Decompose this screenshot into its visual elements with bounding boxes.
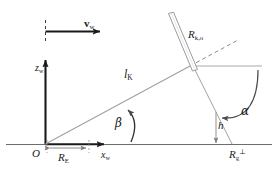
label-radius-ground: RE xyxy=(58,152,69,163)
label-z-axis: zw xyxy=(35,63,43,73)
radius-ground-subscript: E xyxy=(65,157,69,164)
alpha-symbol: α xyxy=(241,104,249,118)
rod-centerline-extension xyxy=(195,70,232,144)
dashed-extension-line xyxy=(190,40,238,66)
label-origin: O xyxy=(32,148,40,159)
z-axis-subscript: w xyxy=(39,67,43,74)
label-velocity: vw xyxy=(84,18,94,29)
geometry-diagram: vw zw lK Rk,o α β h O RE xw Rg⊥ xyxy=(0,0,278,169)
height-symbol: h xyxy=(218,119,224,131)
beta-arc-arrow xyxy=(128,110,135,142)
origin-symbol: O xyxy=(32,147,40,159)
x-axis-subscript: w xyxy=(105,154,109,161)
label-radius-ko: Rk,o xyxy=(188,29,203,40)
diagram-canvas xyxy=(0,0,278,169)
radius-ko-symbol: R xyxy=(188,28,195,40)
radius-perp-superscript: ⊥ xyxy=(239,148,245,155)
alpha-arc-arrow xyxy=(222,70,258,118)
beta-symbol: β xyxy=(115,116,122,130)
radius-ground-symbol: R xyxy=(58,151,65,163)
cable-line-lk xyxy=(46,66,191,144)
label-height: h xyxy=(218,120,224,131)
label-radius-perp: Rg⊥ xyxy=(229,149,246,160)
velocity-symbol: v xyxy=(84,17,90,29)
label-cable-length: lK xyxy=(124,68,133,80)
label-x-axis: xw xyxy=(101,150,110,160)
radius-ko-subscript: k,o xyxy=(195,34,204,41)
radius-perp-symbol: R xyxy=(229,148,236,160)
rod-element xyxy=(169,12,198,71)
label-angle-alpha: α xyxy=(241,105,249,117)
cable-length-subscript: K xyxy=(127,73,132,82)
velocity-subscript: w xyxy=(90,23,95,30)
label-angle-beta: β xyxy=(115,117,122,129)
